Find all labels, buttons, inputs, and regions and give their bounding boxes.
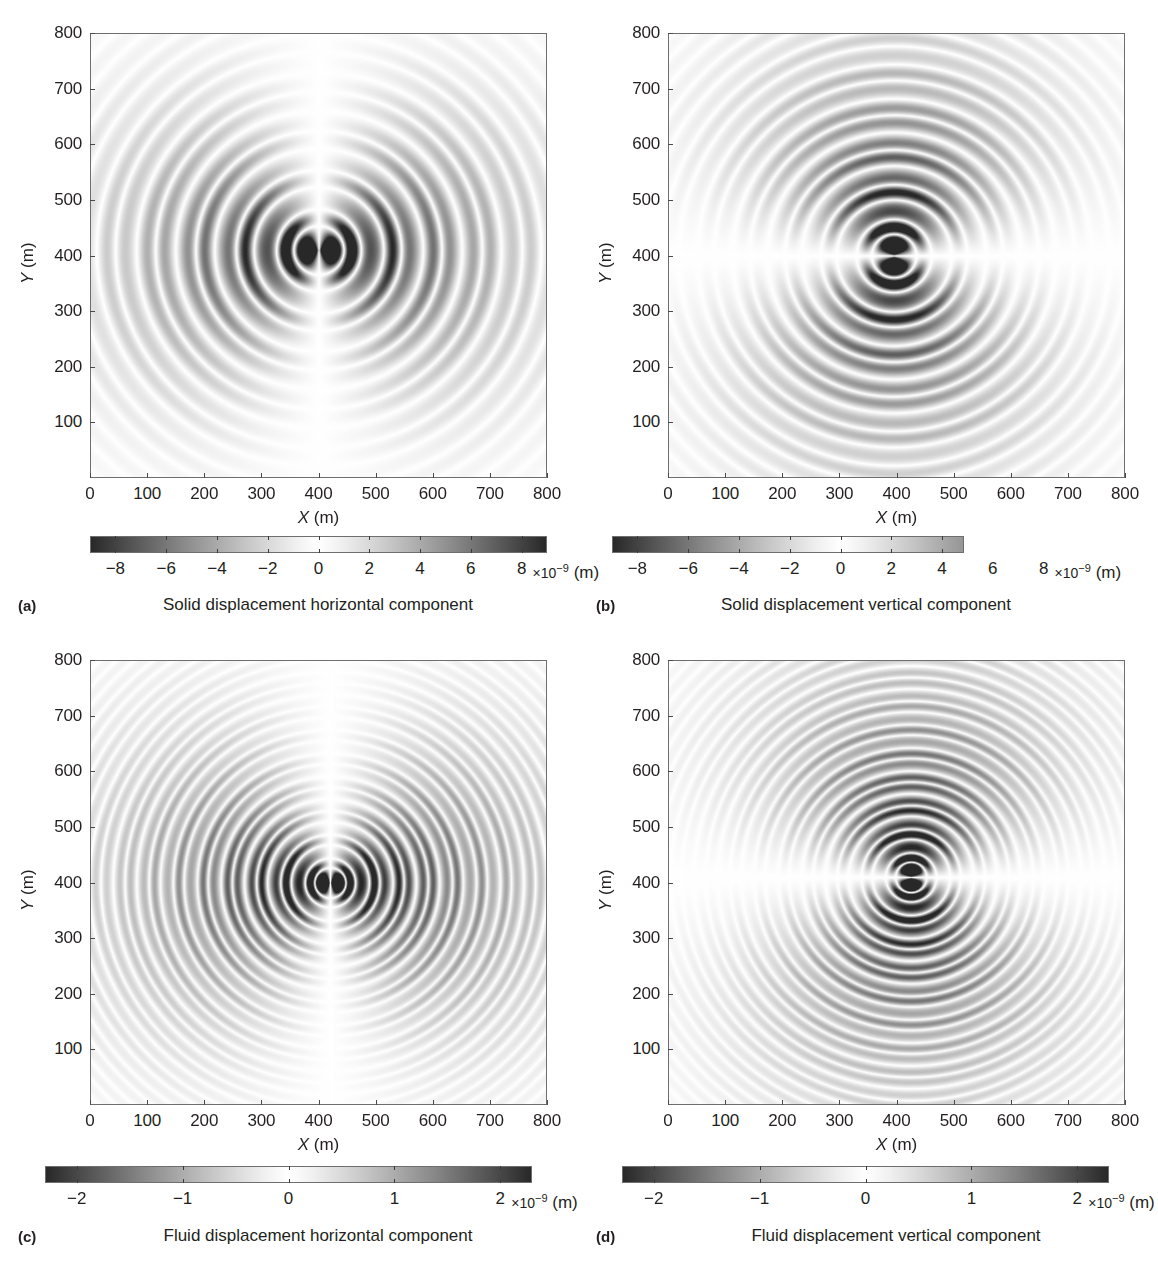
x-tick-mark-c	[90, 1100, 91, 1105]
x-tick-label-c: 500	[362, 1111, 390, 1131]
colorbar-tick-mark-d	[971, 1166, 972, 1170]
colorbar-tick-label-d: −2	[644, 1189, 663, 1209]
y-tick-mark-b	[668, 89, 673, 90]
plot-area-b	[668, 33, 1125, 478]
colorbar-tick-label-a: 4	[415, 559, 424, 579]
wavefield-image-d	[669, 661, 1124, 1104]
wavefield-image-b	[669, 34, 1124, 477]
x-tick-mark-d	[1125, 1100, 1126, 1105]
y-tick-label-a: 800	[38, 23, 82, 43]
colorbar-tick-mark-c	[183, 1166, 184, 1170]
colorbar-tick-mark-a	[217, 536, 218, 540]
x-tick-mark-b	[1068, 473, 1069, 478]
y-tick-label-c: 700	[38, 706, 82, 726]
y-axis-title-d: Y (m)	[596, 869, 616, 911]
y-tick-label-b: 500	[616, 190, 660, 210]
colorbar-tick-label-d: 0	[861, 1189, 870, 1209]
y-tick-label-a: 500	[38, 190, 82, 210]
y-tick-label-b: 800	[616, 23, 660, 43]
colorbar-tick-mark-b	[637, 549, 638, 553]
colorbar-tick-mark-a	[420, 536, 421, 540]
x-tick-label-d: 300	[825, 1111, 853, 1131]
colorbar-tick-label-c: −2	[67, 1189, 86, 1209]
x-tick-mark-d	[782, 1100, 783, 1105]
colorbar-tick-mark-a	[420, 549, 421, 553]
colorbar-tick-mark-b	[739, 536, 740, 540]
colorbar-tick-mark-b	[790, 536, 791, 540]
colorbar-tick-mark-a	[319, 549, 320, 553]
x-tick-mark-d	[725, 1100, 726, 1105]
y-tick-mark-a	[90, 367, 95, 368]
y-tick-mark-d	[668, 827, 673, 828]
colorbar-tick-label-a: −6	[156, 559, 175, 579]
y-tick-mark-b	[668, 200, 673, 201]
y-tick-mark-d	[668, 994, 673, 995]
y-tick-mark-d	[668, 1049, 673, 1050]
x-tick-mark-a	[261, 473, 262, 478]
colorbar-tick-label-a: 6	[466, 559, 475, 579]
plot-area-a	[90, 33, 547, 478]
x-axis-title-d: X (m)	[668, 1135, 1125, 1155]
x-tick-mark-c	[547, 1100, 548, 1105]
y-tick-label-a: 400	[38, 246, 82, 266]
y-tick-label-d: 300	[616, 928, 660, 948]
colorbar-units-b: ×10−9 (m)	[1055, 562, 1122, 583]
x-tick-label-c: 300	[247, 1111, 275, 1131]
colorbar-tick-label-b: −2	[780, 559, 799, 579]
y-tick-mark-c	[90, 716, 95, 717]
colorbar-b	[612, 536, 964, 553]
colorbar-tick-mark-b	[942, 536, 943, 540]
y-tick-mark-c	[90, 771, 95, 772]
x-tick-label-b: 300	[825, 484, 853, 504]
panel-letter-c: (c)	[18, 1228, 36, 1245]
x-tick-mark-d	[839, 1100, 840, 1105]
colorbar-tick-label-d: 1	[967, 1189, 976, 1209]
x-tick-label-b: 600	[997, 484, 1025, 504]
colorbar-tick-mark-a	[268, 536, 269, 540]
x-tick-mark-d	[954, 1100, 955, 1105]
colorbar-tick-mark-c	[289, 1166, 290, 1170]
x-tick-mark-d	[1011, 1100, 1012, 1105]
y-tick-label-c: 400	[38, 873, 82, 893]
y-tick-mark-c	[90, 827, 95, 828]
colorbar-tick-label-b: 6	[988, 559, 997, 579]
colorbar-tick-mark-a	[522, 549, 523, 553]
x-tick-label-d: 700	[1054, 1111, 1082, 1131]
colorbar-tick-mark-d	[1077, 1166, 1078, 1170]
x-axis-title-a: X (m)	[90, 508, 547, 528]
wavefield-image-a	[91, 34, 546, 477]
y-tick-mark-a	[90, 422, 95, 423]
x-tick-mark-c	[433, 1100, 434, 1105]
y-tick-mark-b	[668, 256, 673, 257]
y-tick-mark-a	[90, 89, 95, 90]
y-tick-mark-b	[668, 144, 673, 145]
colorbar-tick-label-b: 8	[1039, 559, 1048, 579]
colorbar-tick-label-a: 8	[517, 559, 526, 579]
x-tick-label-c: 400	[305, 1111, 333, 1131]
y-tick-label-d: 500	[616, 817, 660, 837]
colorbar-tick-mark-b	[942, 549, 943, 553]
colorbar-tick-mark-c	[77, 1166, 78, 1170]
colorbar-tick-mark-d	[654, 1166, 655, 1170]
panel-caption-b: Solid displacement vertical component	[721, 595, 1011, 615]
colorbar-tick-mark-b	[790, 549, 791, 553]
x-tick-label-c: 600	[419, 1111, 447, 1131]
x-tick-label-b: 700	[1054, 484, 1082, 504]
y-tick-mark-d	[668, 771, 673, 772]
x-tick-mark-c	[147, 1100, 148, 1105]
y-tick-mark-c	[90, 660, 95, 661]
y-tick-mark-c	[90, 1049, 95, 1050]
y-tick-mark-a	[90, 144, 95, 145]
colorbar-tick-mark-c	[394, 1166, 395, 1170]
y-tick-mark-d	[668, 938, 673, 939]
y-tick-mark-d	[668, 660, 673, 661]
y-tick-label-a: 600	[38, 134, 82, 154]
x-tick-label-c: 800	[533, 1111, 561, 1131]
x-tick-label-d: 800	[1111, 1111, 1139, 1131]
x-tick-label-a: 300	[247, 484, 275, 504]
x-tick-mark-c	[490, 1100, 491, 1105]
x-tick-mark-b	[1125, 473, 1126, 478]
x-tick-label-a: 0	[85, 484, 94, 504]
x-tick-label-d: 500	[940, 1111, 968, 1131]
x-tick-mark-a	[376, 473, 377, 478]
